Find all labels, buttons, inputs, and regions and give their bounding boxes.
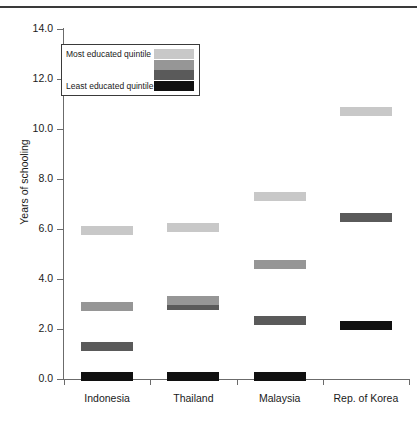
y-tick-label: 14.0: [13, 22, 53, 34]
y-tick-label: 10.0: [13, 122, 53, 134]
y-tick: [57, 229, 63, 230]
bar-malaysia-q1: [254, 192, 306, 201]
x-tick: [150, 379, 151, 385]
header-rule: [0, 6, 417, 8]
bar-rep-of-korea-q3: [340, 213, 392, 222]
y-tick-label: 4.0: [13, 272, 53, 284]
y-tick: [57, 329, 63, 330]
y-tick-label: 8.0: [13, 172, 53, 184]
chart-figure: Education distribution by quintile Years…: [0, 0, 417, 423]
y-tick-label: 0.0: [13, 372, 53, 384]
y-tick-label: 6.0: [13, 222, 53, 234]
x-tick: [323, 379, 324, 385]
legend-swatch: [154, 70, 194, 80]
legend-row: Least educated quintile: [66, 81, 195, 91]
legend-row: .: [66, 60, 195, 70]
bar-rep-of-korea-q1: [340, 107, 392, 116]
bar-indonesia-q4: [81, 372, 133, 381]
legend-swatch: [154, 49, 194, 59]
legend-label: Most educated quintile: [66, 49, 154, 59]
x-axis-label-rep-of-korea: Rep. of Korea: [311, 392, 417, 404]
y-tick: [57, 379, 63, 380]
legend-label: Least educated quintile: [66, 81, 154, 91]
legend-row: .: [66, 70, 195, 80]
x-tick: [409, 379, 410, 385]
bar-indonesia-q1: [81, 226, 133, 235]
y-tick: [57, 179, 63, 180]
y-tick: [57, 29, 63, 30]
y-tick: [57, 279, 63, 280]
y-tick-label: 2.0: [13, 322, 53, 334]
chart-legend: Most educated quintile..Least educated q…: [61, 44, 200, 96]
y-tick-label: 12.0: [13, 72, 53, 84]
bar-indonesia-q3: [81, 342, 133, 351]
bar-malaysia-q4: [254, 372, 306, 381]
bar-thailand-q2: [167, 296, 219, 305]
x-tick: [237, 379, 238, 385]
legend-row: Most educated quintile: [66, 49, 195, 59]
legend-swatch: [154, 81, 194, 91]
bar-indonesia-q2: [81, 302, 133, 311]
bar-thailand-q4: [167, 372, 219, 381]
y-tick: [57, 129, 63, 130]
bar-malaysia-q3: [254, 316, 306, 325]
bar-rep-of-korea-q4: [340, 321, 392, 330]
legend-swatch: [154, 60, 194, 70]
bar-thailand-q1: [167, 223, 219, 232]
x-tick: [64, 379, 65, 385]
bar-malaysia-q2: [254, 260, 306, 269]
